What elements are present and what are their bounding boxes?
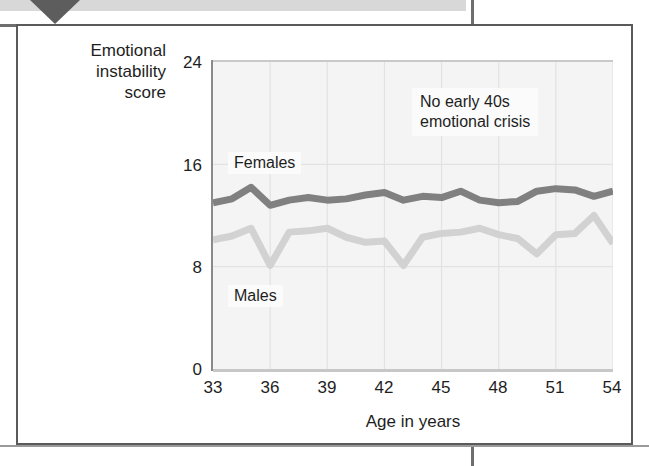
x-tick-36: 36 <box>250 378 290 398</box>
y-tick-16: 16 <box>162 156 202 176</box>
y-tick-8: 8 <box>162 258 202 278</box>
x-tick-42: 42 <box>364 378 404 398</box>
series-line-females <box>213 187 613 205</box>
x-tick-48: 48 <box>478 378 518 398</box>
y-axis-title: Emotional instability score <box>36 40 166 103</box>
series-label-males: Males <box>228 285 283 307</box>
x-tick-39: 39 <box>307 378 347 398</box>
series-line-males <box>213 216 613 266</box>
x-axis-title: Age in years <box>213 412 613 432</box>
series-label-females: Females <box>228 152 301 174</box>
x-tick-54: 54 <box>592 378 632 398</box>
x-tick-51: 51 <box>535 378 575 398</box>
page-rule-vertical-bottom <box>471 445 474 466</box>
chart-annotation: No early 40s emotional crisis <box>412 88 538 136</box>
corner-triangle-marker <box>30 0 80 24</box>
x-tick-33: 33 <box>193 378 233 398</box>
y-tick-0: 0 <box>162 360 202 380</box>
page-canvas: Emotional instability score 24 16 8 0 Fe… <box>0 0 649 466</box>
page-rule-vertical-top <box>471 0 474 26</box>
page-rule-baseline <box>0 445 649 447</box>
x-tick-45: 45 <box>421 378 461 398</box>
y-tick-24: 24 <box>162 53 202 73</box>
